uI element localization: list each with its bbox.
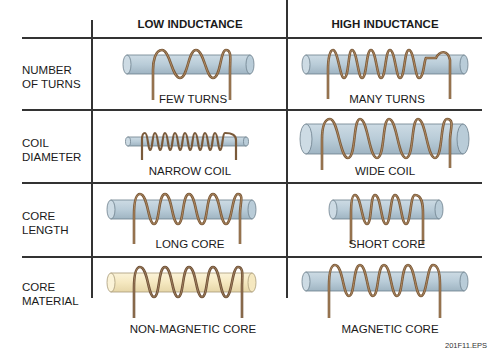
coil-illustrations [0, 0, 499, 358]
caption-non-magnetic-core: NON-MAGNETIC CORE [93, 323, 293, 335]
caption-wide-coil: WIDE COIL [285, 165, 485, 177]
caption-narrow-coil: NARROW COIL [90, 165, 290, 177]
coil-long-core [107, 194, 256, 244]
coil-non-magnetic-core [107, 267, 256, 318]
caption-few-turns: FEW TURNS [93, 93, 293, 105]
figure-id: 201F11.EPS [445, 341, 487, 350]
coil-many-turns [302, 50, 468, 99]
coil-narrow [126, 133, 249, 160]
caption-magnetic-core: MAGNETIC CORE [290, 323, 490, 335]
caption-many-turns: MANY TURNS [287, 93, 487, 105]
coil-wide [300, 119, 469, 170]
coil-short-core [329, 195, 443, 244]
caption-short-core: SHORT CORE [287, 238, 487, 250]
coil-magnetic-core [302, 265, 468, 318]
caption-long-core: LONG CORE [90, 238, 290, 250]
